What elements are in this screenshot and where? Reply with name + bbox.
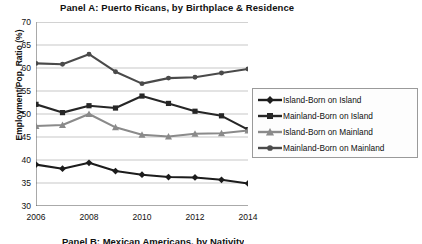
chart-legend: Island-Born on Island Mainland-Born on I… xyxy=(252,88,418,158)
x-tick-label: 2010 xyxy=(122,212,162,222)
y-tick-label: 60 xyxy=(5,63,31,73)
legend-item: Mainland-Born on Mainland xyxy=(257,140,413,156)
legend-marker-circle-icon xyxy=(257,142,283,154)
next-panel-title-partial: Panel B: Mexican Americans, by Nativity xyxy=(62,236,244,244)
y-tick-label: 55 xyxy=(5,86,31,96)
legend-item: Island-Born on Mainland xyxy=(257,124,413,140)
x-tick-label: 2008 xyxy=(69,212,109,222)
legend-label: Island-Born on Mainland xyxy=(283,126,373,138)
x-tick-label: 2006 xyxy=(16,212,56,222)
legend-label: Mainland-Born on Mainland xyxy=(283,142,384,154)
legend-label: Mainland-Born on Island xyxy=(283,110,373,122)
legend-item: Mainland-Born on Island xyxy=(257,108,413,124)
y-tick-label: 70 xyxy=(5,17,31,27)
legend-label: Island-Born on Island xyxy=(283,94,361,106)
x-tick-label: 2014 xyxy=(228,212,268,222)
x-tick-label: 2012 xyxy=(175,212,215,222)
page-title: Panel A: Puerto Ricans, by Birthplace & … xyxy=(60,2,294,13)
legend-marker-triangle-icon xyxy=(257,126,283,138)
y-tick-label: 45 xyxy=(5,132,31,142)
legend-item: Island-Born on Island xyxy=(257,92,413,108)
legend-marker-diamond-icon xyxy=(257,94,283,106)
y-tick-label: 30 xyxy=(5,201,31,211)
y-tick-label: 65 xyxy=(5,40,31,50)
chart-figure: Panel A: Puerto Ricans, by Birthplace & … xyxy=(0,0,422,244)
legend-marker-square-icon xyxy=(257,110,283,122)
y-tick-label: 50 xyxy=(5,109,31,119)
y-tick-label: 40 xyxy=(5,155,31,165)
y-tick-label: 35 xyxy=(5,178,31,188)
plot-area xyxy=(36,22,248,206)
